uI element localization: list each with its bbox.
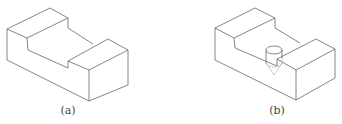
figure-a-label: (a) <box>60 104 75 117</box>
figure-b-label: (b) <box>269 104 285 117</box>
figure-a-block <box>7 8 128 101</box>
diagram-canvas <box>0 0 342 124</box>
